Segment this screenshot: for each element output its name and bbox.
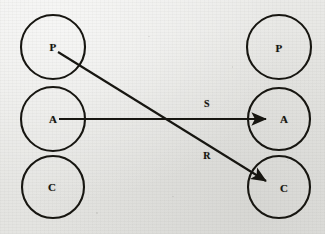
edge-arrow-r bbox=[58, 52, 266, 181]
edge-label-r: R bbox=[203, 151, 210, 161]
diagram-edges bbox=[58, 52, 266, 181]
edge-label-s: S bbox=[204, 99, 210, 109]
paper-speck bbox=[287, 160, 288, 161]
paper-speck bbox=[148, 36, 150, 37]
paper-speck bbox=[172, 196, 174, 197]
node-label-left-p: P bbox=[50, 42, 57, 53]
node-label-right-p: P bbox=[276, 43, 283, 54]
node-label-left-a: A bbox=[49, 114, 57, 125]
node-label-right-a: A bbox=[280, 114, 288, 125]
node-label-right-c: C bbox=[280, 183, 288, 194]
paper-speck bbox=[96, 212, 98, 214]
diagram-figure: P A C P A C S R bbox=[0, 0, 325, 234]
paper-speck bbox=[232, 66, 233, 68]
node-label-left-c: C bbox=[48, 182, 56, 193]
